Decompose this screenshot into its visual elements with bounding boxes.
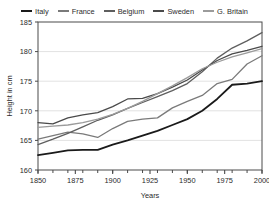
- legend-swatch-line-icon: [153, 10, 164, 12]
- height-over-time-line-chart: ItalyFranceBelgiumSwedenG. Britain 16016…: [0, 0, 269, 204]
- x-axis-title: Years: [141, 191, 160, 200]
- chart-legend: ItalyFranceBelgiumSwedenG. Britain: [0, 4, 269, 18]
- legend-item-italy[interactable]: Italy: [21, 7, 49, 16]
- x-tick-label-1925: 1925: [142, 176, 158, 185]
- y-tick-label-185: 185: [20, 18, 32, 27]
- x-tick-label-2000: 2000: [254, 176, 269, 185]
- legend-swatch-line-icon: [21, 10, 32, 12]
- series-lines: [38, 33, 262, 156]
- legend-item-france[interactable]: France: [58, 7, 95, 16]
- legend-swatch-line-icon: [58, 10, 69, 12]
- legend-item-g-britain[interactable]: G. Britain: [203, 7, 248, 16]
- x-tick-label-1875: 1875: [67, 176, 83, 185]
- x-axis-tick-labels: 1850187519001925195019752000: [30, 176, 269, 185]
- x-tick-label-1900: 1900: [104, 176, 120, 185]
- y-axis-title: Height in cm: [5, 75, 14, 116]
- legend-label: G. Britain: [217, 7, 248, 16]
- legend-label: France: [72, 7, 95, 16]
- legend-item-sweden[interactable]: Sweden: [153, 7, 194, 16]
- legend-label: Belgium: [118, 7, 145, 16]
- plot-area-wrapper: 160165170175180185 185018751900192519501…: [0, 18, 269, 204]
- legend-swatch-line-icon: [203, 10, 214, 12]
- y-axis-tick-labels: 160165170175180185: [20, 18, 32, 175]
- legend-swatch-line-icon: [104, 10, 115, 12]
- legend-item-belgium[interactable]: Belgium: [104, 7, 145, 16]
- legend-label: Sweden: [167, 7, 194, 16]
- y-tick-label-170: 170: [20, 107, 32, 116]
- y-tick-label-160: 160: [20, 166, 32, 175]
- x-tick-label-1850: 1850: [30, 176, 46, 185]
- x-tick-label-1975: 1975: [216, 176, 232, 185]
- y-tick-label-175: 175: [20, 77, 32, 86]
- y-tick-label-165: 165: [20, 136, 32, 145]
- x-tick-label-1950: 1950: [179, 176, 195, 185]
- x-axis-ticks: [38, 170, 262, 174]
- plot-svg: 160165170175180185 185018751900192519501…: [0, 18, 269, 204]
- legend-label: Italy: [35, 7, 49, 16]
- y-tick-label-180: 180: [20, 47, 32, 56]
